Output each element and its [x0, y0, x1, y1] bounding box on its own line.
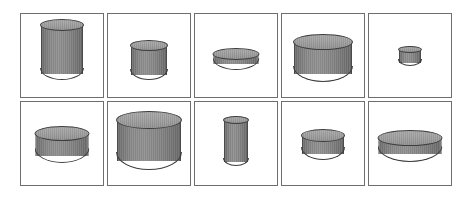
- cylinder-grid: [20, 13, 452, 186]
- grid-cell[interactable]: [368, 101, 452, 186]
- cylinder-top-ellipse: [130, 40, 168, 51]
- cylinder-shape: [41, 19, 83, 80]
- cylinder-top-ellipse: [293, 34, 353, 50]
- cylinder-top-ellipse: [35, 126, 90, 141]
- cylinder-top-ellipse: [301, 129, 345, 142]
- cylinder-top-ellipse: [116, 111, 182, 129]
- cylinder-top-ellipse: [213, 48, 260, 60]
- cylinder-shape: [36, 126, 89, 163]
- cylinder-shape: [224, 116, 248, 166]
- cylinder-shape: [399, 46, 421, 66]
- grid-cell[interactable]: [20, 101, 104, 186]
- cylinder-shape: [379, 130, 442, 162]
- cylinder-10: [379, 130, 442, 162]
- grid-cell[interactable]: [368, 13, 452, 98]
- cylinder-3: [214, 48, 259, 70]
- cylinder-body: [41, 25, 83, 74]
- cylinder-7: [117, 111, 181, 170]
- cylinder-shape: [131, 40, 167, 80]
- cylinder-top-ellipse: [398, 46, 422, 53]
- grid-cell[interactable]: [107, 13, 191, 98]
- cylinder-5: [399, 46, 421, 66]
- cylinder-6: [36, 126, 89, 163]
- cylinder-shape: [117, 111, 181, 170]
- cylinder-top-ellipse: [223, 116, 249, 124]
- cylinder-shape: [302, 129, 344, 160]
- cylinder-shape: [214, 48, 259, 70]
- cylinder-top-ellipse: [378, 130, 443, 146]
- cylinder-body: [224, 120, 248, 162]
- cylinder-8: [224, 116, 248, 166]
- grid-cell[interactable]: [107, 101, 191, 186]
- grid-cell[interactable]: [194, 13, 278, 98]
- figure-canvas: [0, 0, 471, 198]
- grid-cell[interactable]: [281, 13, 365, 98]
- cylinder-shape: [294, 34, 352, 82]
- cylinder-top-ellipse: [40, 19, 84, 31]
- grid-cell[interactable]: [20, 13, 104, 98]
- cylinder-2: [131, 40, 167, 80]
- grid-cell[interactable]: [281, 101, 365, 186]
- cylinder-1: [41, 19, 83, 80]
- grid-cell[interactable]: [194, 101, 278, 186]
- cylinder-4: [294, 34, 352, 82]
- cylinder-9: [302, 129, 344, 160]
